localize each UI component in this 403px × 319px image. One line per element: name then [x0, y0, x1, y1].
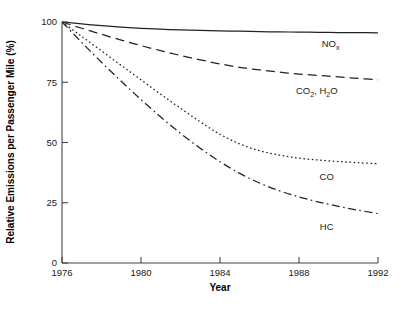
x-tick-label: 1992	[367, 267, 388, 278]
chart-canvas: 19761980198419881992 0255075100 NOxCO2, …	[0, 0, 403, 319]
series-label-hc: HC	[320, 221, 334, 232]
x-tick-label: 1980	[130, 267, 151, 278]
series-line-nox	[62, 22, 378, 33]
y-tick-label: 25	[46, 197, 57, 208]
x-tick-label: 1984	[209, 267, 230, 278]
series-inline-labels-group: NOxCO2, H2OCOHC	[296, 38, 340, 232]
series-curves-group	[62, 22, 378, 214]
y-axis-ticks-group: 0255075100	[41, 16, 68, 268]
x-tick-label: 1976	[51, 267, 72, 278]
y-tick-label: 50	[46, 137, 57, 148]
x-axis-ticks-group: 19761980198419881992	[51, 257, 388, 278]
series-label-co2-h2o: CO2, H2O	[296, 85, 338, 98]
y-tick-label: 0	[52, 257, 57, 268]
y-tick-label: 100	[41, 16, 57, 27]
series-line-hc	[62, 22, 378, 214]
y-axis-title: Relative Emissions per Passenger Mile (%…	[5, 40, 16, 243]
emissions-chart-figure: 19761980198419881992 0255075100 NOxCO2, …	[0, 0, 403, 319]
y-tick-label: 75	[46, 77, 57, 88]
series-label-co: CO	[320, 171, 334, 182]
x-axis-title: Year	[209, 282, 230, 293]
series-label-nox: NOx	[322, 38, 340, 51]
x-tick-label: 1988	[288, 267, 309, 278]
